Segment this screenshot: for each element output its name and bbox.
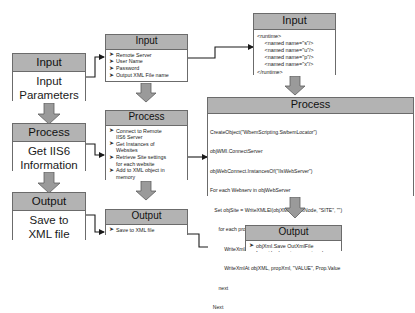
node-left-process-line-2: Information	[15, 158, 83, 172]
node-right-output-body: ➤ objXml.Save OutXmlFile	[246, 241, 341, 252]
list-item-label: Password	[116, 65, 139, 71]
node-left-input-header: Input	[13, 54, 85, 72]
bullet-arrow-icon: ➤	[109, 167, 114, 173]
list-item-label: objXml.Save OutXmlFile	[256, 243, 313, 249]
code-line: Next	[210, 304, 411, 311]
node-left-process[interactable]: Process Get IIS6 Information	[12, 123, 86, 171]
node-right-process-code: CreateObject("WbemScripting.SwbemLocator…	[208, 114, 413, 313]
list-item-label: Remote Server	[116, 52, 152, 58]
node-mid-process-body: ➤ Connect to Remote IIS6 Server ➤ Get In…	[106, 126, 187, 183]
list-item-label: Output XML File name	[116, 72, 169, 78]
node-left-input-line-2: Parameters	[15, 88, 83, 102]
list-item-label: Get Instances of	[116, 141, 155, 147]
node-left-process-body: Get IIS6 Information	[13, 142, 85, 175]
bullet-arrow-icon: ➤	[109, 154, 114, 160]
node-left-process-line-1: Get IIS6	[15, 144, 83, 158]
node-right-input-header: Input	[254, 14, 335, 30]
bullet-arrow-icon: ➤	[109, 140, 114, 146]
code-line: For each Webserv in objWebServer	[210, 187, 411, 194]
list-item-label: Add to XML object in	[116, 167, 165, 173]
list-item-label: Retrieve Site settings	[116, 154, 166, 160]
code-line: Set objSite = WriteXMLEl(objXML, RootNod…	[210, 207, 411, 214]
list-item-label-cont: IIS6 Server	[116, 134, 185, 140]
code-line: CreateObject("WbemScripting.SwbemLocator…	[210, 129, 411, 136]
node-left-output[interactable]: Output Save to XML file	[12, 192, 86, 240]
node-left-process-header: Process	[13, 124, 85, 142]
arrow-right-input-to-process	[284, 76, 306, 96]
bullet-arrow-icon: ➤	[109, 226, 114, 232]
list-item: ➤ Retrieve Site settings for each websit…	[109, 154, 185, 167]
list-item-label: User Name	[116, 58, 143, 64]
node-mid-input-header: Input	[106, 35, 187, 50]
list-item: ➤ Output XML File name	[109, 72, 185, 78]
code-line: WriteXmlAt objXML, propXml, "VALUE", Pro…	[210, 265, 411, 272]
node-mid-process-header: Process	[106, 111, 187, 126]
bullet-arrow-icon: ➤	[109, 72, 114, 78]
bullet-arrow-icon: ➤	[109, 127, 114, 133]
list-item: ➤ User Name	[109, 58, 185, 64]
node-left-output-header: Output	[13, 193, 85, 211]
node-right-input-xml: <runtime> <named name="s"/> <named name=…	[254, 30, 335, 79]
bullet-arrow-icon: ➤	[109, 65, 114, 71]
code-line: next	[210, 285, 411, 292]
node-left-output-line-1: Save to	[15, 213, 83, 227]
code-line: objWMI.ConnectServer	[210, 148, 411, 155]
node-left-output-line-2: XML file	[15, 227, 83, 241]
list-item: ➤ Save to XML file	[109, 227, 185, 233]
list-item: ➤ Get Instances of Websites	[109, 141, 185, 154]
node-right-process-header: Process	[208, 98, 413, 114]
bullet-arrow-icon: ➤	[249, 242, 254, 248]
node-mid-process-list: ➤ Connect to Remote IIS6 Server ➤ Get In…	[109, 128, 185, 181]
node-right-output-header: Output	[246, 226, 341, 241]
node-left-input-body: Input Parameters	[13, 72, 85, 105]
arrow-mid-process-to-output	[135, 181, 157, 201]
arrow-right-process-to-output	[284, 197, 306, 219]
node-mid-input[interactable]: Input ➤ Remote Server ➤ User Name ➤ Pass…	[105, 34, 188, 82]
list-item-label: Save to XML file	[116, 227, 154, 233]
bullet-arrow-icon: ➤	[109, 51, 114, 57]
node-mid-output-list: ➤ Save to XML file	[109, 227, 185, 233]
bullet-arrow-icon: ➤	[109, 58, 114, 64]
node-mid-output[interactable]: Output ➤ Save to XML file	[105, 209, 188, 235]
node-left-input[interactable]: Input Input Parameters	[12, 53, 86, 101]
node-mid-process[interactable]: Process ➤ Connect to Remote IIS6 Server …	[105, 110, 188, 180]
node-mid-output-header: Output	[106, 210, 187, 225]
list-item: ➤ Add to XML object in memory	[109, 167, 185, 180]
arrow-mid-input-to-process	[135, 83, 157, 103]
list-item: ➤ Connect to Remote IIS6 Server	[109, 128, 185, 141]
node-mid-output-body: ➤ Save to XML file	[106, 225, 187, 236]
arrow-left-process-to-output	[37, 172, 61, 194]
list-item: ➤ objXml.Save OutXmlFile	[249, 243, 339, 249]
list-item-label: Connect to Remote	[116, 128, 162, 134]
list-item: ➤ Password	[109, 65, 185, 71]
node-right-process[interactable]: Process CreateObject("WbemScripting.Swbe…	[207, 97, 414, 196]
node-right-output-list: ➤ objXml.Save OutXmlFile	[249, 243, 339, 249]
arrow-left-input-to-process	[37, 103, 61, 125]
node-left-input-line-1: Input	[15, 74, 83, 88]
node-right-output[interactable]: Output ➤ objXml.Save OutXmlFile	[245, 225, 342, 251]
list-item-label-cont: Websites	[116, 147, 185, 153]
node-mid-input-body: ➤ Remote Server ➤ User Name ➤ Password ➤…	[106, 50, 187, 82]
node-right-input[interactable]: Input <runtime> <named name="s"/> <named…	[253, 13, 336, 75]
node-left-output-body: Save to XML file	[13, 211, 85, 244]
code-line: objWebConnect.InstancesOf("IIsWebServer"…	[210, 168, 411, 175]
list-item-label-cont: memory	[116, 174, 185, 180]
node-mid-input-list: ➤ Remote Server ➤ User Name ➤ Password ➤…	[109, 52, 185, 79]
list-item: ➤ Remote Server	[109, 52, 185, 58]
list-item-label-cont: for each website	[116, 161, 185, 167]
